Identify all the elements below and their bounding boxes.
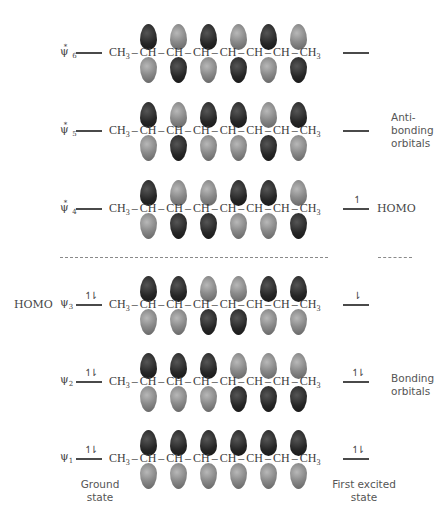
ground-state-level (76, 381, 102, 383)
psi-index: 3 (69, 303, 73, 311)
excited-electron-arrows-icon: ↿⇂ (351, 367, 362, 378)
methyl-end: CH (300, 297, 317, 311)
psi-label: ψ*5 (60, 122, 77, 138)
bond: – (238, 201, 244, 215)
bond: – (238, 451, 244, 465)
psi-label: ψ2 (60, 373, 73, 388)
methyl-start: CH (109, 123, 126, 137)
methyl-start: CH (109, 451, 126, 465)
methine-ch: CH (140, 123, 157, 137)
bond: – (212, 374, 218, 388)
bond: – (185, 451, 191, 465)
methine-ch: CH (220, 201, 237, 215)
homo-lumo-divider-right (378, 257, 412, 258)
excited-state-level (343, 208, 369, 210)
ground-state-level (76, 458, 102, 460)
methyl-end: CH (300, 374, 317, 388)
methine-ch: CH (273, 374, 290, 388)
ground-state-level (76, 52, 102, 54)
methine-ch: CH (220, 451, 237, 465)
bond: – (292, 374, 298, 388)
methyl-end: CH (300, 201, 317, 215)
antibonding-label-line1: Anti- (391, 111, 434, 124)
ground-state-level (76, 304, 102, 306)
bond: – (265, 297, 271, 311)
carbon-chain-formula: CH3–CH–CH–CH–CH–CH–CH–CH3 (109, 374, 320, 390)
bond: – (132, 45, 138, 59)
first-excited-caption-line2: state (322, 491, 406, 504)
ground-state-caption: Ground state (70, 478, 130, 504)
bond: – (212, 123, 218, 137)
bond: – (292, 123, 298, 137)
bond: – (212, 451, 218, 465)
bond: – (265, 45, 271, 59)
methyl-start: CH (109, 374, 126, 388)
methine-ch: CH (220, 123, 237, 137)
antibonding-star: * (64, 43, 68, 51)
excited-state-level (343, 130, 369, 132)
bond: – (158, 374, 164, 388)
carbon-chain-formula: CH3–CH–CH–CH–CH–CH–CH–CH3 (109, 451, 320, 467)
subscript: 3 (126, 458, 130, 467)
ground-state-caption-line2: state (70, 491, 130, 504)
methine-ch: CH (273, 45, 290, 59)
bonding-label-line2: orbitals (391, 385, 434, 398)
ground-state-level (76, 130, 102, 132)
methine-ch: CH (220, 45, 237, 59)
bond: – (265, 123, 271, 137)
methine-ch: CH (166, 374, 183, 388)
methyl-start: CH (109, 297, 126, 311)
antibonding-star: * (64, 199, 68, 207)
subscript: 3 (316, 381, 320, 390)
antibonding-label-line3: orbitals (391, 137, 434, 150)
bond: – (158, 451, 164, 465)
bond: – (132, 201, 138, 215)
bonding-label-line1: Bonding (391, 372, 434, 385)
bond: – (292, 201, 298, 215)
homo-label-ground: HOMO (14, 298, 53, 311)
bond: – (185, 123, 191, 137)
bond: – (238, 297, 244, 311)
homo-label-excited: HOMO (377, 202, 416, 215)
subscript: 3 (126, 208, 130, 217)
bond: – (185, 297, 191, 311)
antibonding-label-line2: bonding (391, 124, 434, 137)
bond: – (238, 374, 244, 388)
methine-ch: CH (140, 297, 157, 311)
methine-ch: CH (193, 451, 210, 465)
bond: – (132, 297, 138, 311)
methine-ch: CH (140, 201, 157, 215)
methine-ch: CH (273, 451, 290, 465)
methine-ch: CH (193, 45, 210, 59)
carbon-chain-formula: CH3–CH–CH–CH–CH–CH–CH–CH3 (109, 297, 320, 313)
subscript: 3 (316, 458, 320, 467)
methine-ch: CH (246, 123, 263, 137)
excited-state-level (343, 52, 369, 54)
psi-label: ψ3 (60, 296, 73, 311)
subscript: 3 (126, 381, 130, 390)
bond: – (265, 451, 271, 465)
methine-ch: CH (140, 45, 157, 59)
ground-electron-arrows-icon: ↿⇂ (84, 367, 95, 378)
methyl-end: CH (300, 451, 317, 465)
psi-symbol: ψ (60, 373, 69, 386)
methine-ch: CH (166, 451, 183, 465)
bond: – (158, 123, 164, 137)
excited-electron-arrows-icon: ↿⇂ (351, 444, 362, 455)
subscript: 3 (316, 304, 320, 313)
bond: – (158, 45, 164, 59)
methine-ch: CH (246, 45, 263, 59)
bond: – (132, 123, 138, 137)
bond: – (292, 451, 298, 465)
bond: – (185, 45, 191, 59)
excited-state-level (343, 304, 369, 306)
psi-index: 2 (69, 380, 73, 388)
methyl-end: CH (300, 45, 317, 59)
bond: – (158, 297, 164, 311)
methine-ch: CH (193, 374, 210, 388)
methine-ch: CH (166, 123, 183, 137)
carbon-chain-formula: CH3–CH–CH–CH–CH–CH–CH–CH3 (109, 123, 320, 139)
antibonding-star: * (64, 121, 68, 129)
psi-label: ψ1 (60, 450, 73, 465)
bond: – (185, 374, 191, 388)
